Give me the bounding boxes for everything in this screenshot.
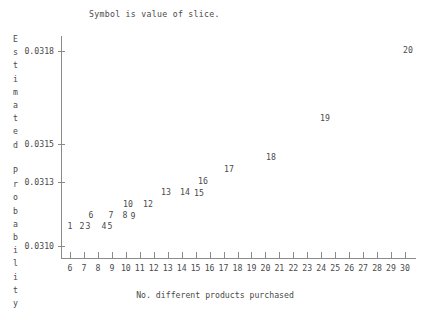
y-axis-title-char: i	[13, 271, 23, 284]
y-axis-title-char: a	[13, 99, 23, 112]
data-point-label: 9	[125, 211, 141, 221]
x-axis-tick	[84, 252, 85, 259]
y-axis-title-char: t	[13, 112, 23, 125]
data-point-label: 10	[120, 199, 136, 209]
x-axis-tick	[251, 252, 252, 259]
y-axis-title: Estimated Probability	[13, 33, 23, 310]
y-axis-title-char	[13, 152, 23, 165]
data-point-label: 15	[191, 188, 207, 198]
x-axis-tick	[391, 252, 392, 259]
x-axis-tick-label: 30	[397, 263, 413, 273]
x-axis-tick	[265, 252, 266, 259]
y-axis-tick-label: 0.0310	[12, 241, 54, 251]
y-axis-title-char: l	[13, 257, 23, 270]
y-axis-title-char: i	[13, 73, 23, 86]
x-axis-tick	[154, 252, 155, 259]
x-axis-tick	[279, 252, 280, 259]
data-point-label: 16	[195, 176, 211, 186]
x-axis-tick	[307, 252, 308, 259]
data-point-label: 13	[158, 187, 174, 197]
data-point-label: 17	[221, 164, 237, 174]
y-axis-tick	[58, 246, 65, 247]
data-point-label: 12	[140, 199, 156, 209]
x-axis-tick	[210, 252, 211, 259]
y-axis-tick	[58, 182, 65, 183]
y-axis-title-char: b	[13, 205, 23, 218]
scatter-plot-figure: Symbol is value of slice. Estimated Prob…	[0, 0, 430, 311]
data-point-label: 6	[83, 210, 99, 220]
data-point-label: 20	[400, 45, 416, 55]
chart-title: Symbol is value of slice.	[89, 10, 220, 19]
x-axis-tick	[238, 252, 239, 259]
y-axis-tick-label: 0.0315	[12, 139, 54, 149]
x-axis-tick	[196, 252, 197, 259]
y-axis-tick-label: 0.0318	[12, 46, 54, 56]
x-axis-tick	[70, 252, 71, 259]
data-point-label: 19	[317, 113, 333, 123]
y-axis-tick-label: 0.0313	[12, 177, 54, 187]
x-axis-tick	[224, 252, 225, 259]
x-axis-tick	[377, 252, 378, 259]
x-axis-tick	[321, 252, 322, 259]
x-axis-tick	[126, 252, 127, 259]
x-axis-tick	[335, 252, 336, 259]
y-axis-title-char: E	[13, 33, 23, 46]
x-axis-tick	[182, 252, 183, 259]
y-axis-title-char: t	[13, 59, 23, 72]
x-axis-tick	[349, 252, 350, 259]
data-point-label: 18	[263, 152, 279, 162]
x-axis-tick	[168, 252, 169, 259]
y-axis-title-char: a	[13, 218, 23, 231]
data-point-label: 3	[80, 221, 96, 231]
y-axis-tick	[58, 144, 65, 145]
x-axis-tick	[98, 252, 99, 259]
x-axis-tick	[405, 252, 406, 259]
x-axis-tick	[140, 252, 141, 259]
y-axis-title-char: o	[13, 191, 23, 204]
y-axis-title-char: e	[13, 125, 23, 138]
data-point-label: 5	[102, 221, 118, 231]
x-axis-tick	[363, 252, 364, 259]
y-axis-title-char: m	[13, 86, 23, 99]
x-axis-tick	[112, 252, 113, 259]
x-axis-title: No. different products purchased	[0, 290, 430, 300]
x-axis-tick	[293, 252, 294, 259]
y-axis-tick	[58, 51, 65, 52]
